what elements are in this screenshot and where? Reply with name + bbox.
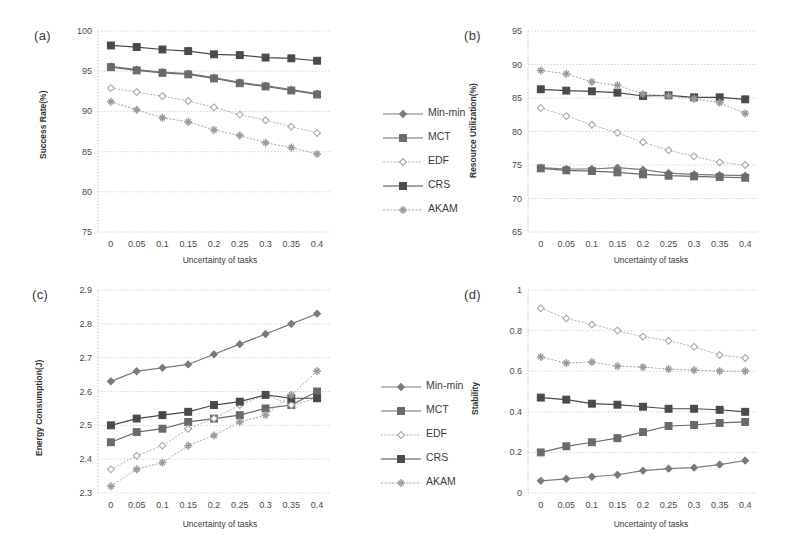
legend-marker-icon	[381, 154, 425, 166]
x-tick-label: 0.05	[558, 500, 576, 510]
x-tick-label: 0	[538, 239, 543, 249]
data-point-marker	[716, 406, 723, 413]
data-point-marker	[262, 391, 269, 398]
data-point-marker	[288, 55, 295, 62]
panel-b-plot	[406, 0, 812, 278]
panel-d-plot	[406, 278, 812, 557]
data-point-marker	[588, 88, 595, 95]
y-tick-label: 2.6	[64, 387, 92, 397]
x-tick-label: 0.05	[128, 239, 146, 249]
legend-marker-icon	[379, 379, 423, 391]
x-tick-label: 0.3	[688, 239, 701, 249]
legend-item-mct[interactable]: MCT	[379, 397, 463, 421]
data-point-marker	[399, 206, 407, 214]
legend-marker-icon	[381, 202, 425, 214]
x-tick-label: 0.4	[739, 239, 752, 249]
y-tick-label: 100	[64, 26, 92, 36]
data-point-marker	[314, 57, 321, 64]
panel-b: (b) Resource Utilization(%) Uncertainty …	[406, 0, 812, 278]
data-point-marker	[588, 439, 595, 446]
x-tick-label: 0.35	[711, 239, 729, 249]
data-point-marker	[397, 479, 405, 487]
data-point-marker	[742, 96, 749, 103]
data-point-marker	[159, 46, 166, 53]
legend-item-crs[interactable]: CRS	[381, 172, 465, 196]
x-tick-label: 0.05	[558, 239, 576, 249]
legend-label: Min-min	[428, 106, 465, 118]
data-point-marker	[236, 52, 243, 59]
legend-item-mct[interactable]: MCT	[381, 124, 465, 148]
y-tick-label: 1	[494, 285, 522, 295]
data-point-marker	[236, 412, 243, 419]
y-tick-label: 95	[494, 26, 522, 36]
legend-item-akam[interactable]: AKAM	[381, 196, 465, 220]
data-point-marker	[185, 48, 192, 55]
y-tick-label: 2.8	[64, 319, 92, 329]
y-tick-label: 85	[64, 147, 92, 157]
x-tick-label: 0	[108, 239, 113, 249]
x-tick-label: 0.15	[179, 500, 197, 510]
y-tick-label: 80	[494, 127, 522, 137]
legend-item-min-min[interactable]: Min-min	[379, 373, 463, 397]
legend-marker-icon	[379, 475, 423, 487]
data-point-marker	[185, 71, 192, 78]
data-point-marker	[563, 87, 570, 94]
legend-bottom: Min-minMCTEDFCRSAKAM	[379, 373, 463, 493]
legend-item-edf[interactable]: EDF	[379, 421, 463, 445]
x-tick-label: 0.05	[128, 500, 146, 510]
data-point-marker	[107, 64, 114, 71]
data-point-marker	[211, 75, 218, 82]
legend-item-crs[interactable]: CRS	[379, 445, 463, 469]
data-point-marker	[398, 408, 405, 415]
data-point-marker	[563, 443, 570, 450]
data-point-marker	[262, 83, 269, 90]
y-tick-label: 2.5	[64, 420, 92, 430]
legend-marker-icon	[381, 106, 425, 118]
data-point-marker	[716, 174, 723, 181]
data-point-marker	[563, 167, 570, 174]
data-point-marker	[159, 425, 166, 432]
data-point-marker	[742, 419, 749, 426]
x-tick-label: 0.3	[259, 500, 272, 510]
x-tick-label: 0.3	[259, 239, 272, 249]
data-point-marker	[537, 394, 544, 401]
y-tick-label: 75	[64, 227, 92, 237]
y-tick-label: 80	[64, 187, 92, 197]
data-point-marker	[288, 87, 295, 94]
data-point-marker	[211, 402, 218, 409]
data-point-marker	[262, 54, 269, 61]
x-tick-label: 0.35	[711, 500, 729, 510]
figure-root: (a) Success Rate(%) Uncertainty of tasks…	[0, 0, 812, 557]
y-tick-label: 2.3	[64, 488, 92, 498]
data-point-marker	[133, 415, 140, 422]
y-tick-label: 85	[494, 93, 522, 103]
data-point-marker	[107, 42, 114, 49]
data-point-marker	[614, 401, 621, 408]
y-tick-label: 0	[494, 488, 522, 498]
x-tick-label: 0.3	[688, 500, 701, 510]
panel-a: (a) Success Rate(%) Uncertainty of tasks…	[0, 0, 406, 278]
x-tick-label: 0.2	[208, 239, 221, 249]
x-tick-label: 0.15	[609, 239, 627, 249]
data-point-marker	[107, 439, 114, 446]
legend-item-akam[interactable]: AKAM	[379, 469, 463, 493]
legend-label: Min-min	[426, 379, 463, 391]
x-tick-label: 0.4	[311, 239, 324, 249]
legend-marker-icon	[379, 403, 423, 415]
x-tick-label: 0.25	[231, 500, 249, 510]
data-point-marker	[588, 400, 595, 407]
data-point-marker	[640, 429, 647, 436]
panel-c-plot	[0, 278, 406, 557]
legend-item-min-min[interactable]: Min-min	[381, 100, 465, 124]
data-point-marker	[716, 420, 723, 427]
y-tick-label: 90	[64, 106, 92, 116]
data-point-marker	[742, 174, 749, 181]
x-tick-label: 0.35	[283, 500, 301, 510]
legend-label: EDF	[426, 427, 447, 439]
y-tick-label: 70	[494, 194, 522, 204]
legend-item-edf[interactable]: EDF	[381, 148, 465, 172]
x-tick-label: 0.2	[637, 500, 650, 510]
y-tick-label: 0.2	[494, 447, 522, 457]
legend-label: AKAM	[426, 475, 456, 487]
panel-d: (d) Stability Uncertainty of tasks 00.20…	[406, 278, 812, 557]
